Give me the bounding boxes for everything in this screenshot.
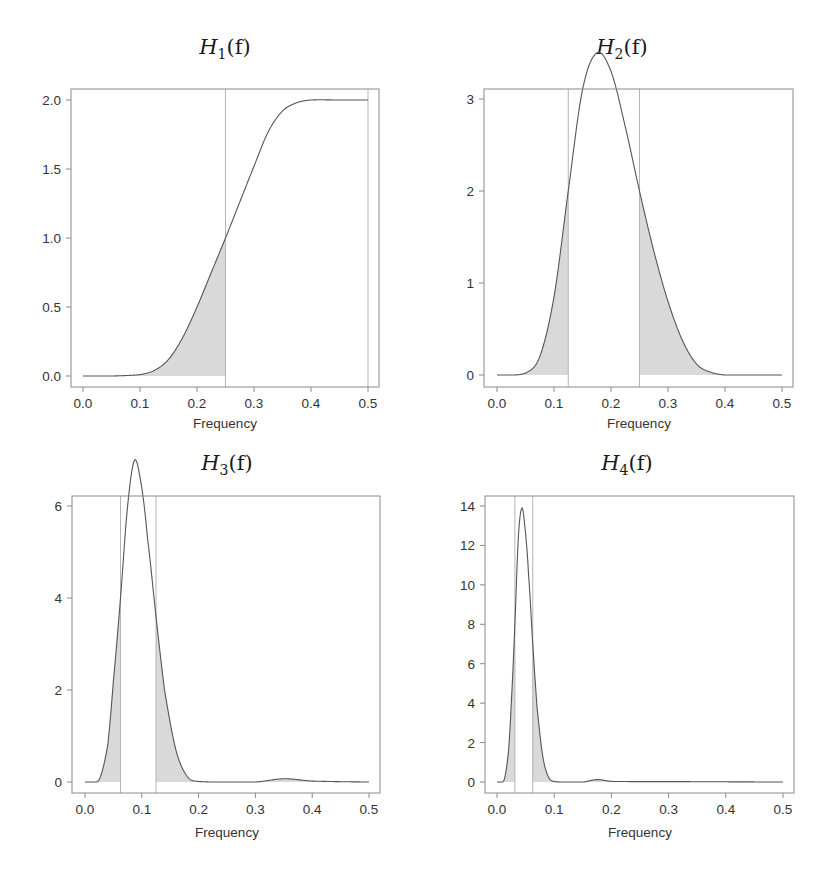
y-tick-label: 2 [466, 184, 474, 199]
panel-title: H1(f) [198, 35, 250, 62]
y-tick-label: 1.0 [42, 231, 61, 246]
x-tick-label: 0.5 [773, 396, 792, 411]
y-tick-label: 4 [54, 591, 62, 606]
y-tick-label: 2 [467, 736, 475, 751]
x-tick-label: 0.5 [360, 802, 379, 817]
plot-area: 0.00.10.20.30.40.50.00.51.01.52.0 [42, 89, 379, 411]
shaded-region [497, 624, 515, 782]
plot-area: 0.00.10.20.30.40.502468101214 [460, 496, 794, 817]
shaded-region [497, 191, 568, 375]
y-tick-label: 0.0 [42, 369, 61, 384]
x-tick-label: 0.0 [76, 802, 95, 817]
y-tick-label: 10 [460, 578, 475, 593]
x-tick-label: 0.5 [359, 396, 378, 411]
x-tick-label: 0.1 [131, 396, 150, 411]
x-axis-label: Frequency [193, 416, 257, 431]
x-tick-label: 0.4 [716, 802, 735, 817]
shaded-region [83, 238, 226, 376]
x-tick-label: 0.2 [602, 396, 621, 411]
y-tick-label: 0.5 [42, 300, 61, 315]
x-axis-label: Frequency [607, 416, 671, 431]
y-tick-label: 4 [467, 696, 475, 711]
x-tick-label: 0.0 [74, 396, 93, 411]
shaded-region [533, 644, 783, 782]
x-tick-label: 0.3 [245, 396, 264, 411]
x-tick-label: 0.1 [545, 396, 564, 411]
x-tick-label: 0.3 [659, 802, 678, 817]
y-tick-label: 14 [460, 499, 476, 514]
x-tick-label: 0.3 [659, 396, 678, 411]
y-tick-label: 0 [54, 775, 62, 790]
x-tick-label: 0.1 [132, 802, 151, 817]
y-tick-label: 0 [467, 775, 475, 790]
y-tick-label: 0 [466, 368, 474, 383]
shaded-region [85, 598, 121, 782]
plot-frame [485, 496, 794, 793]
y-tick-label: 1 [466, 276, 474, 291]
x-tick-label: 0.4 [302, 396, 321, 411]
x-tick-label: 0.2 [188, 396, 207, 411]
plot-area: 0.00.10.20.30.40.50123 [466, 52, 793, 411]
plot-frame [484, 89, 793, 387]
panel-title: H3(f) [200, 451, 252, 478]
x-tick-label: 0.0 [488, 396, 507, 411]
y-tick-label: 8 [467, 617, 475, 632]
y-tick-label: 3 [466, 92, 474, 107]
plot-area: 0.00.10.20.30.40.50246 [54, 460, 380, 817]
x-tick-label: 0.0 [488, 802, 507, 817]
panel-h4: H4(f) 0.00.10.20.30.40.502468101214 Freq… [460, 451, 794, 840]
y-tick-label: 2 [54, 683, 62, 698]
panel-h2: H2(f) 0.00.10.20.30.40.50123 Frequency [466, 35, 793, 431]
shaded-region [640, 191, 783, 375]
panel-h1: H1(f) 0.00.10.20.30.40.50.00.51.01.52.0 … [42, 35, 379, 431]
x-axis-label: Frequency [195, 825, 259, 840]
shaded-region [156, 616, 369, 782]
response-curve [85, 460, 369, 782]
y-tick-label: 6 [54, 499, 62, 514]
panel-title: H4(f) [600, 451, 652, 478]
x-tick-label: 0.4 [716, 396, 735, 411]
x-tick-label: 0.3 [246, 802, 265, 817]
figure: H1(f) 0.00.10.20.30.40.50.00.51.01.52.0 … [0, 0, 837, 878]
panel-h3: H3(f) 0.00.10.20.30.40.50246 Frequency [54, 451, 380, 840]
x-tick-label: 0.2 [602, 802, 621, 817]
y-tick-label: 6 [467, 657, 475, 672]
x-tick-label: 0.2 [189, 802, 208, 817]
y-tick-label: 12 [460, 538, 475, 553]
panel-title: H2(f) [595, 35, 647, 62]
y-tick-label: 2.0 [42, 93, 61, 108]
x-tick-label: 0.5 [774, 802, 793, 817]
x-tick-label: 0.4 [303, 802, 322, 817]
y-tick-label: 1.5 [42, 162, 61, 177]
x-axis-label: Frequency [608, 825, 672, 840]
x-tick-label: 0.1 [545, 802, 564, 817]
